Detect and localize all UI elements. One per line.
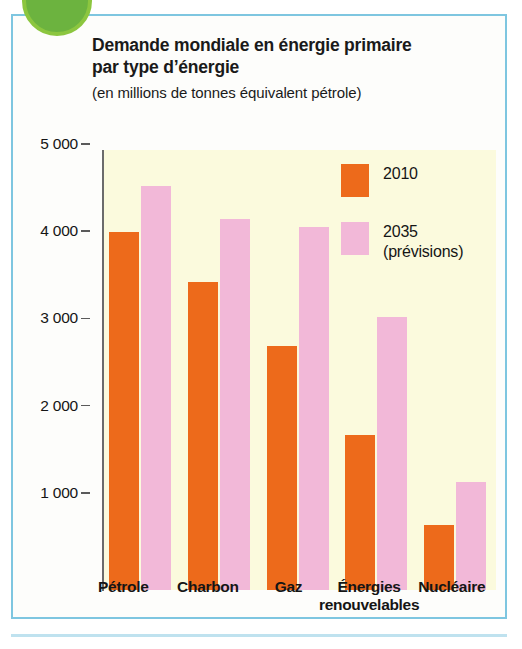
x-category-label-line: renouvelables [316, 596, 423, 614]
y-tick-label: 2 000 [12, 397, 78, 415]
legend-swatch [341, 222, 369, 255]
y-tick-label: 1 000 [12, 484, 78, 502]
bar-2035-nucl-aire [456, 482, 486, 590]
chart-title-line-2: par type d’énergie [92, 56, 502, 78]
bar-2035-gaz [299, 227, 329, 590]
bar-2010--nergies-renouvelables [345, 435, 375, 590]
bar-group [345, 150, 407, 590]
x-axis-category-labels: PétroleCharbonGazÉnergiesrenouvelablesNu… [90, 578, 483, 638]
chart-title-line-1: Demande mondiale en énergie primaire [92, 34, 502, 56]
y-tick-label: 4 000 [12, 222, 78, 240]
bar-group [188, 150, 250, 590]
bar-2010-gaz [267, 346, 297, 590]
bar-group [267, 150, 329, 590]
legend-label: 2010 [383, 164, 418, 184]
legend-label-year: 2010 [383, 164, 418, 184]
x-category-label-line: Nucléaire [398, 578, 505, 596]
legend-item: 2035(prévisions) [341, 222, 463, 261]
bar-2010-charbon [188, 282, 218, 590]
bar-2035-charbon [220, 219, 250, 590]
figure-panel: Demande mondiale en énergie primaire par… [11, 14, 507, 619]
bars-layer [103, 150, 496, 590]
x-category-label: Nucléaire [398, 578, 505, 596]
legend-item: 2010 [341, 164, 418, 197]
legend-label-year: 2035 [383, 222, 463, 242]
chart-subtitle: (en millions de tonnes équivalent pétrol… [92, 84, 502, 101]
y-tick-mark [81, 318, 90, 320]
y-tick-label: 5 000 [12, 135, 78, 153]
y-tick-mark [81, 492, 90, 494]
legend-label-note: (prévisions) [383, 242, 463, 262]
legend-swatch [341, 164, 369, 197]
title-block: Demande mondiale en énergie primaire par… [92, 34, 502, 101]
y-tick-mark [81, 230, 90, 232]
bar-2035--nergies-renouvelables [377, 317, 407, 590]
y-axis-labels: 1 0002 0003 0004 0005 000 [0, 0, 78, 649]
legend-label: 2035(prévisions) [383, 222, 463, 261]
y-tick-mark [81, 143, 90, 145]
y-tick-label: 3 000 [12, 309, 78, 327]
bar-2010-p-trole [109, 232, 139, 590]
y-tick-mark [81, 405, 90, 407]
bar-2035-p-trole [141, 186, 171, 590]
bar-group [424, 150, 486, 590]
bar-group [109, 150, 171, 590]
bottom-accent-rule [11, 634, 507, 637]
